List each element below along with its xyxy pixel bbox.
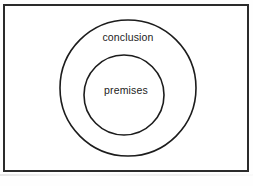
inner-circle-label: premises [104,85,148,96]
scan-edge-artifact [0,174,253,176]
figure-canvas: conclusion premises [0,0,253,186]
caption-clipped-region [0,180,253,186]
outer-circle-label: conclusion [102,32,153,43]
